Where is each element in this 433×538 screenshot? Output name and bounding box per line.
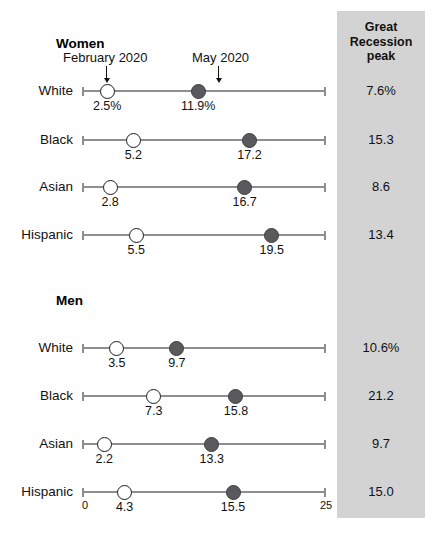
axis-cap-start [82,87,84,96]
row-label-women-white: White [0,83,73,98]
axis-cap-start [82,392,84,401]
marker-february-2020 [97,437,112,452]
axis-line [83,139,325,141]
marker-may-2020 [242,133,257,148]
dumbbell-chart: Great Recession peak Women Men February … [0,0,433,538]
axis-cap-end [324,488,326,497]
row-label-men-black: Black [0,388,73,403]
axis-line [83,395,325,397]
marker-may-2020 [204,437,219,452]
recession-peak-header-line-2: Recession [337,35,425,50]
group-title-men: Men [56,293,83,308]
value-may-2020: 16.7 [215,195,275,209]
marker-may-2020 [226,485,241,500]
recession-peak-header-line-3: peak [337,49,425,64]
value-february-2020: 4.3 [95,500,155,514]
marker-february-2020 [146,389,161,404]
value-may-2020: 11.9% [168,99,228,113]
marker-may-2020 [264,228,279,243]
marker-may-2020 [191,84,206,99]
axis-cap-end [324,183,326,192]
marker-february-2020 [129,228,144,243]
value-may-2020: 17.2 [219,148,279,162]
group-title-women: Women [56,36,105,51]
axis-line [83,186,325,188]
value-february-2020: 2.5% [77,99,137,113]
axis-cap-end [324,392,326,401]
callout-may-2020: May 2020 [192,50,249,65]
row-label-men-white: White [0,340,73,355]
axis-cap-start [82,440,84,449]
marker-february-2020 [117,485,132,500]
recession-peak-value: 21.2 [337,388,425,403]
recession-peak-value: 7.6% [337,83,425,98]
callout-arrow-february [104,78,110,83]
value-february-2020: 5.5 [106,243,166,257]
axis-cap-end [324,440,326,449]
axis-cap-end [324,231,326,240]
marker-february-2020 [100,84,115,99]
marker-may-2020 [169,341,184,356]
recession-peak-value: 15.3 [337,132,425,147]
axis-cap-end [324,87,326,96]
marker-february-2020 [109,341,124,356]
recession-peak-value: 13.4 [337,227,425,242]
recession-peak-value: 9.7 [337,436,425,451]
marker-may-2020 [228,389,243,404]
value-may-2020: 9.7 [147,356,207,370]
axis-cap-end [324,344,326,353]
value-may-2020: 13.3 [182,452,242,466]
value-february-2020: 2.8 [80,195,140,209]
row-label-women-hispanic: Hispanic [0,227,73,242]
axis-cap-start [82,488,84,497]
axis-line [83,234,325,236]
axis-tick-min: 0 [76,499,94,511]
value-february-2020: 5.2 [103,148,163,162]
marker-february-2020 [126,133,141,148]
value-may-2020: 15.8 [206,404,266,418]
value-february-2020: 7.3 [124,404,184,418]
value-february-2020: 2.2 [74,452,134,466]
value-may-2020: 19.5 [242,243,302,257]
axis-cap-start [82,136,84,145]
axis-cap-start [82,231,84,240]
recession-peak-header: Great Recession peak [337,20,425,64]
recession-peak-header-line-1: Great [337,20,425,35]
row-label-men-hispanic: Hispanic [0,484,73,499]
axis-tick-max: 25 [316,499,336,511]
value-may-2020: 15.5 [203,500,263,514]
axis-cap-end [324,136,326,145]
recession-peak-value: 10.6% [337,340,425,355]
row-label-men-asian: Asian [0,436,73,451]
axis-cap-start [82,344,84,353]
recession-peak-value: 8.6 [337,179,425,194]
marker-may-2020 [237,180,252,195]
recession-peak-value: 15.0 [337,484,425,499]
callout-arrow-may [216,78,222,83]
callout-february-2020: February 2020 [63,50,148,65]
value-february-2020: 3.5 [87,356,147,370]
row-label-women-black: Black [0,132,73,147]
row-label-women-asian: Asian [0,179,73,194]
marker-february-2020 [103,180,118,195]
axis-cap-start [82,183,84,192]
